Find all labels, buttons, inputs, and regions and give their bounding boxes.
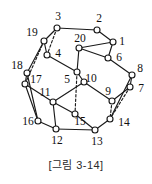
graph-node-label-16: 16 — [22, 115, 34, 127]
graph-node-3 — [54, 25, 60, 31]
graph-node-9 — [109, 98, 115, 104]
graph-node-7 — [127, 84, 133, 90]
graph-edge-5-20 — [77, 48, 79, 72]
graph-edge-5-15 — [75, 72, 77, 114]
graph-node-label-14: 14 — [118, 116, 130, 128]
graph-node-label-9: 9 — [105, 85, 111, 97]
figure-container: 1234567891011121314151617181920 [그림 3-14… — [0, 0, 152, 184]
graph-edge-15-11 — [53, 102, 75, 114]
graph-node-label-17: 17 — [30, 73, 42, 85]
graph-edge-6-20 — [79, 48, 108, 58]
graph-node-20 — [76, 45, 82, 51]
graph-node-12 — [53, 126, 59, 132]
graph-edge-10-11 — [53, 82, 84, 102]
graph-node-2 — [94, 27, 100, 33]
graph-edge-14-8 — [110, 75, 132, 119]
graph-edge-2-3 — [57, 28, 97, 30]
graph-edge-4-5 — [47, 55, 77, 72]
graph-node-label-4: 4 — [55, 47, 61, 59]
graph-node-4 — [44, 52, 50, 58]
graph-node-17 — [22, 81, 28, 87]
graph-node-label-5: 5 — [64, 73, 70, 85]
graph-node-label-19: 19 — [26, 26, 38, 38]
graph-node-8 — [129, 72, 135, 78]
graph-node-16 — [35, 118, 41, 124]
graph-node-1 — [110, 39, 116, 45]
figure-caption: [그림 3-14] — [0, 156, 152, 172]
graph-diagram: 1234567891011121314151617181920 — [0, 0, 152, 152]
graph-node-14 — [107, 116, 113, 122]
graph-node-label-11: 11 — [39, 86, 50, 98]
graph-node-5 — [74, 69, 80, 75]
labels-layer: 1234567891011121314151617181920 — [11, 10, 144, 147]
graph-node-18 — [24, 70, 30, 76]
graph-node-6 — [105, 55, 111, 61]
graph-node-label-12: 12 — [51, 134, 63, 146]
graph-node-label-2: 2 — [96, 12, 102, 24]
graph-node-13 — [92, 127, 98, 133]
graph-node-label-8: 8 — [137, 62, 143, 74]
graph-node-label-20: 20 — [74, 32, 86, 44]
graph-node-label-7: 7 — [138, 82, 144, 94]
graph-node-label-6: 6 — [116, 51, 122, 63]
graph-edge-12-13 — [56, 129, 95, 130]
graph-node-label-3: 3 — [55, 10, 61, 22]
graph-node-label-13: 13 — [91, 135, 103, 147]
graph-node-label-10: 10 — [85, 72, 97, 84]
graph-edge-11-12 — [53, 102, 56, 129]
graph-node-11 — [50, 99, 56, 105]
graph-node-19 — [41, 38, 47, 44]
graph-node-label-1: 1 — [119, 35, 125, 47]
graph-node-label-18: 18 — [11, 59, 23, 71]
graph-node-label-15: 15 — [74, 115, 86, 127]
